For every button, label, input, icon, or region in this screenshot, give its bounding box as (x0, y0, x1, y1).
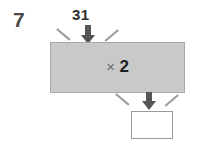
question-number: 7 (13, 9, 25, 30)
operation-box: × 2 (50, 42, 185, 93)
machine-input-label: 31 (72, 7, 90, 22)
operation-value: 2 (119, 57, 128, 76)
operation-label: × 2 (51, 58, 184, 75)
answer-value (132, 112, 172, 138)
function-machine-worksheet: 7 31 × 2 (0, 0, 200, 151)
output-splay-line-right (165, 94, 179, 106)
output-arrow-head (142, 101, 156, 110)
input-splay-line-left (57, 28, 71, 40)
answer-box[interactable] (131, 111, 173, 139)
output-splay-line-left (116, 93, 130, 105)
operation-sign: × (106, 58, 115, 75)
input-splay-line-right (105, 29, 119, 41)
